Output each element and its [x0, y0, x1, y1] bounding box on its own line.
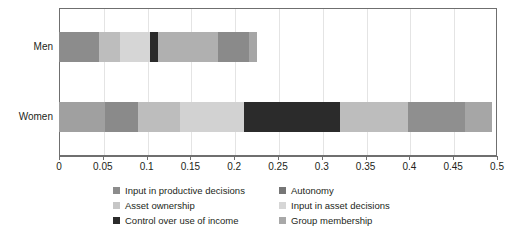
legend-item[interactable]: Asset ownership [113, 201, 279, 211]
x-axis-tick-label: 0.35 [356, 161, 375, 172]
bar-segment [465, 102, 492, 132]
bar-segment [105, 102, 137, 132]
x-axis-tick [103, 156, 104, 160]
legend-swatch-icon [279, 217, 286, 224]
x-axis-tick [409, 156, 410, 160]
bar-women [59, 102, 492, 132]
bar-segment [99, 32, 120, 62]
bar-segment [244, 102, 340, 132]
legend-item[interactable]: Input in asset decisions [279, 201, 453, 211]
legend-item[interactable]: Group membership [279, 216, 453, 226]
bar-segment [138, 102, 180, 132]
gridline [191, 9, 192, 155]
gridline [235, 9, 236, 155]
legend-label: Group membership [291, 216, 372, 226]
bar-segment [218, 32, 250, 62]
x-axis-tick [190, 156, 191, 160]
legend-item[interactable]: Control over use of income [113, 216, 279, 226]
bar-segment [249, 32, 257, 62]
gridline [454, 9, 455, 155]
x-axis-tick [453, 156, 454, 160]
x-axis-tick-label: 0.25 [268, 161, 287, 172]
bar-segment [59, 102, 105, 132]
x-axis-tick-label: 0 [56, 161, 62, 172]
legend-swatch-icon [113, 187, 120, 194]
x-axis-tick [322, 156, 323, 160]
x-axis-tick [366, 156, 367, 160]
x-axis-tick-label: 0.2 [227, 161, 241, 172]
legend-item[interactable]: Input in productive decisions [113, 186, 279, 196]
bar-segment [180, 102, 244, 132]
legend-item[interactable]: Autonomy [279, 186, 453, 196]
bar-segment [120, 32, 150, 62]
x-axis-tick [147, 156, 148, 160]
x-axis-tick-label: 0.05 [93, 161, 112, 172]
gridline [323, 9, 324, 155]
legend-label: Autonomy [291, 186, 334, 196]
legend-swatch-icon [279, 202, 286, 209]
bar-segment [150, 32, 158, 62]
gridline [279, 9, 280, 155]
bar-segment [340, 102, 408, 132]
bar-segment [59, 32, 99, 62]
category-label-men: Men [0, 41, 53, 52]
gridline [410, 9, 411, 155]
plot-area [59, 8, 497, 156]
x-axis-tick-label: 0.4 [402, 161, 416, 172]
x-axis-tick [59, 156, 60, 160]
legend-swatch-icon [113, 202, 120, 209]
x-axis-tick-label: 0.1 [140, 161, 154, 172]
gridline [367, 9, 368, 155]
x-axis-tick [497, 156, 498, 160]
x-axis-tick-label: 0.15 [181, 161, 200, 172]
gridline [104, 9, 105, 155]
chart-legend: Input in productive decisionsAutonomyAss… [113, 183, 453, 228]
legend-swatch-icon [113, 217, 120, 224]
x-axis-tick-label: 0.3 [315, 161, 329, 172]
legend-swatch-icon [279, 187, 286, 194]
x-axis-tick-label: 0.45 [443, 161, 462, 172]
x-axis-tick [234, 156, 235, 160]
category-label-women: Women [0, 111, 53, 122]
gridline [148, 9, 149, 155]
bar-segment [408, 102, 464, 132]
legend-label: Input in productive decisions [125, 186, 245, 196]
legend-label: Asset ownership [125, 201, 195, 211]
bar-segment [158, 32, 218, 62]
stacked-bar-chart: Men Women 00.050.10.150.20.250.30.350.40… [0, 0, 512, 241]
legend-label: Control over use of income [125, 216, 239, 226]
x-axis-tick-label: 0.5 [490, 161, 504, 172]
legend-label: Input in asset decisions [291, 201, 390, 211]
x-axis-tick [278, 156, 279, 160]
bar-men [59, 32, 257, 62]
